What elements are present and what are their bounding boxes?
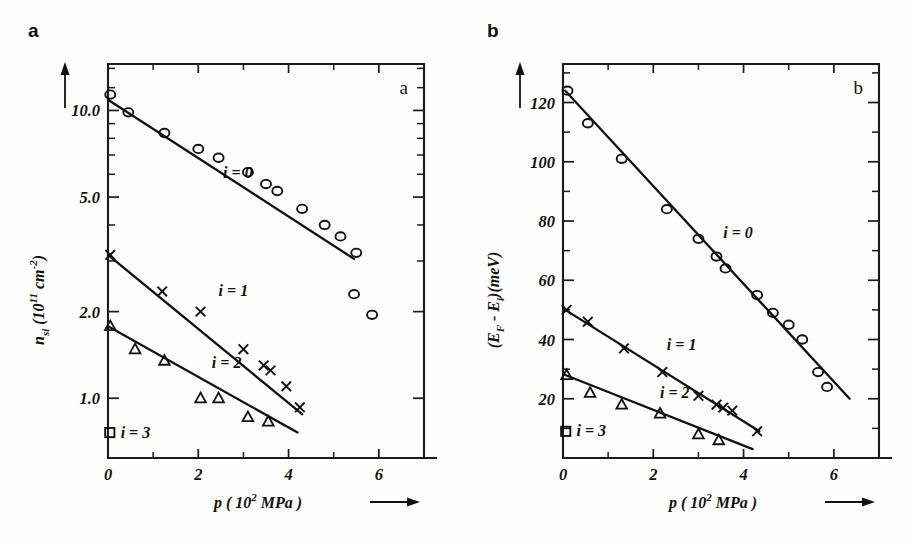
series-label: i = 3 (577, 422, 607, 439)
y-axis-arrow (516, 62, 525, 108)
data-point-cross (282, 382, 292, 392)
x-tick-label: 6 (830, 465, 839, 484)
data-point-circle (797, 335, 807, 343)
data-point-cross (295, 403, 305, 413)
data-point-circle (367, 311, 377, 319)
series-label: i = 0 (223, 164, 253, 181)
x-tick-label: 0 (104, 465, 112, 484)
series-label: i = 1 (667, 336, 697, 353)
x-axis-arrow (370, 498, 420, 507)
series-label: i = 1 (219, 282, 249, 299)
figure-root: a b 02461.02.05.010.0i = 0i = 1i = 2i = … (0, 0, 915, 540)
data-point-circle (349, 290, 359, 298)
data-point-triangle (243, 412, 254, 422)
y-axis-title: (EF - Ei)(meV) (485, 252, 506, 349)
x-tick-label: 6 (375, 465, 384, 484)
chart-panel-b: 024620406080100120i = 0i = 1i = 2i = 3bp… (455, 0, 915, 540)
panel-corner-letter: b (854, 77, 864, 98)
data-point-triangle (213, 393, 224, 403)
data-point-circle (351, 249, 361, 257)
x-axis-arrow (825, 498, 875, 507)
data-point-triangle (105, 321, 116, 331)
y-tick-label: 1.0 (79, 389, 100, 408)
x-tick-label: 0 (559, 465, 567, 484)
data-point-circle (813, 368, 823, 376)
data-point-cross (157, 287, 167, 297)
x-tick-label: 4 (283, 465, 292, 484)
y-tick-label: 5.0 (79, 188, 100, 207)
data-point-cross (196, 307, 206, 317)
data-point-circle (617, 155, 627, 163)
data-point-circle (261, 180, 271, 188)
y-axis-title: nsi (1011 cm-2) (27, 255, 51, 345)
plot-frame (563, 64, 891, 458)
data-point-circle (822, 383, 832, 391)
data-point-circle (297, 205, 307, 213)
data-point-triangle (585, 387, 596, 397)
data-point-circle (105, 90, 115, 98)
data-point-circle (335, 232, 345, 240)
y-tick-label: 80 (539, 212, 556, 231)
series-label: i = 2 (212, 354, 242, 371)
data-point-circle (662, 205, 672, 213)
data-point-circle (583, 119, 593, 127)
series-i-0: i = 0 (563, 86, 850, 398)
x-axis-ticks: 0246 (559, 64, 879, 484)
y-tick-label: 40 (538, 331, 556, 350)
series-label: i = 3 (121, 424, 151, 441)
y-axis-ticks: 1.02.05.010.0 (71, 68, 424, 408)
series-label: i = 0 (723, 224, 753, 241)
series-label: i = 2 (660, 384, 690, 401)
data-point-circle (193, 145, 203, 153)
y-tick-label: 120 (530, 94, 555, 113)
data-point-cross (239, 344, 249, 354)
data-point-cross (266, 366, 276, 376)
x-tick-label: 2 (193, 465, 202, 484)
series-i-3: i = 3 (561, 422, 606, 439)
data-point-circle (784, 320, 794, 328)
y-tick-label: 60 (539, 271, 556, 290)
x-axis-title: p ( 102 MPa ) (212, 491, 302, 512)
chart-panel-a: 02461.02.05.010.0i = 0i = 1i = 2i = 3ap … (0, 0, 460, 540)
y-tick-label: 20 (538, 390, 556, 409)
data-point-circle (214, 154, 224, 162)
series-i-1: i = 1 (562, 305, 762, 436)
x-tick-label: 4 (738, 465, 747, 484)
plot-frame (108, 64, 436, 458)
data-point-cross (259, 361, 269, 371)
y-tick-label: 100 (530, 153, 555, 172)
fit-line (565, 91, 849, 399)
series-i-3: i = 3 (105, 424, 150, 441)
data-point-triangle (616, 399, 627, 409)
y-tick-label: 2.0 (78, 303, 100, 322)
series-i-1: i = 1 (105, 250, 304, 414)
y-tick-label: 10.0 (71, 101, 100, 120)
series-i-2: i = 2 (105, 321, 298, 433)
data-point-square (105, 428, 114, 437)
x-tick-label: 2 (648, 465, 657, 484)
data-point-triangle (195, 393, 206, 403)
data-point-triangle (130, 344, 141, 354)
panel-corner-letter: a (400, 77, 409, 98)
y-axis-arrow (61, 62, 70, 108)
data-point-circle (272, 187, 282, 195)
data-point-circle (320, 221, 330, 229)
fit-line (108, 255, 302, 414)
x-axis-title: p ( 102 MPa ) (667, 491, 757, 512)
